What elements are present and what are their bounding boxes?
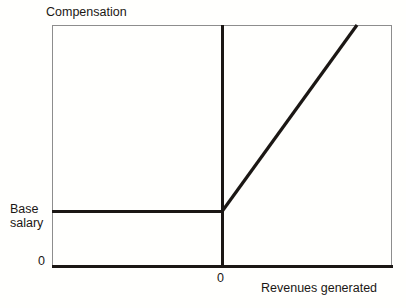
y-axis-origin-tick-label: 0 <box>38 255 45 268</box>
compensation-chart-figure: Compensation Base salary 0 0 Revenues ge… <box>0 0 406 308</box>
base-salary-label-line1: Base <box>10 202 39 216</box>
incentive-slope-segment <box>0 0 406 308</box>
x-axis-origin-tick-label: 0 <box>217 272 224 285</box>
base-salary-label-line2: salary <box>10 216 43 230</box>
y-axis-title: Compensation <box>46 6 127 19</box>
base-salary-label: Base salary <box>10 203 52 230</box>
incentive-slope-line <box>222 25 357 212</box>
x-axis-title: Revenues generated <box>261 282 377 295</box>
